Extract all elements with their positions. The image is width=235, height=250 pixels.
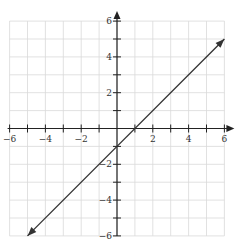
x-tick-label: −6 [3,134,17,144]
y-tick-label: 2 [106,88,112,98]
coordinate-plane: −6−4−2246642−2−4−6 [0,0,235,250]
x-tick-label: −4 [39,134,53,144]
x-tick-label: −2 [75,134,88,144]
y-tick-label: 4 [106,52,112,62]
x-axis-arrow-icon [226,125,234,132]
y-tick-label: −2 [99,159,112,169]
x-tick-label: 6 [222,134,228,144]
plotted-line [28,39,225,236]
y-tick-label: 6 [106,16,112,26]
line-y-equals-x-minus-1 [28,39,225,236]
x-tick-label: 4 [186,134,192,144]
y-axis-arrow-icon [114,11,121,19]
y-tick-label: −4 [99,195,113,205]
x-tick-label: 2 [150,134,156,144]
y-tick-label: −6 [99,231,113,241]
axes [8,11,235,236]
